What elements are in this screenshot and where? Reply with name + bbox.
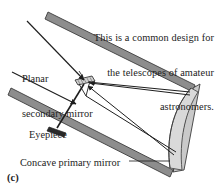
figure-letter: (c) <box>7 172 19 184</box>
label-primary-mirror: Concave primary mirror <box>20 157 120 169</box>
label-eyepiece: Eyepiece <box>29 129 67 141</box>
label-secondary-mirror-line-1: Planar <box>22 73 128 85</box>
label-secondary-mirror-line-2: secondary mirror <box>22 108 128 120</box>
caption-line-1: This is a common design for <box>78 32 214 44</box>
telescope-figure: This is a common design for the telescop… <box>0 0 218 193</box>
